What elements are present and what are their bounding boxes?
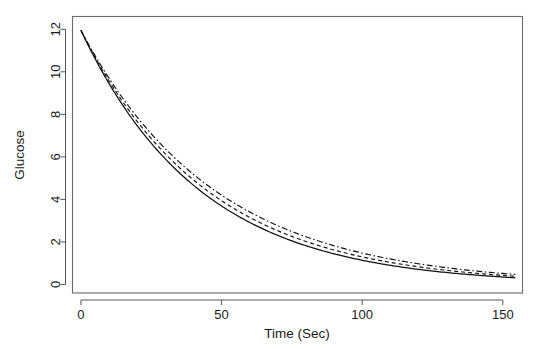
y-tick-label: 8	[48, 111, 63, 118]
x-tick-label: 50	[214, 307, 228, 322]
chart-background	[0, 0, 555, 349]
x-tick-label: 0	[77, 307, 84, 322]
x-tick-label: 100	[351, 307, 373, 322]
y-tick-label: 0	[48, 281, 63, 288]
y-tick-label: 2	[48, 238, 63, 245]
y-tick-label: 6	[48, 153, 63, 160]
y-axis-title: Glucose	[12, 130, 27, 180]
y-tick-label: 10	[48, 65, 63, 79]
x-tick-label: 150	[492, 307, 514, 322]
y-tick-label: 12	[48, 22, 63, 36]
y-tick-label: 4	[48, 196, 63, 203]
x-axis-title: Time (Sec)	[264, 326, 330, 341]
glucose-decay-chart: 050100150 024681012 Time (Sec) Glucose	[0, 0, 555, 349]
chart-figure: 050100150 024681012 Time (Sec) Glucose	[0, 0, 555, 349]
